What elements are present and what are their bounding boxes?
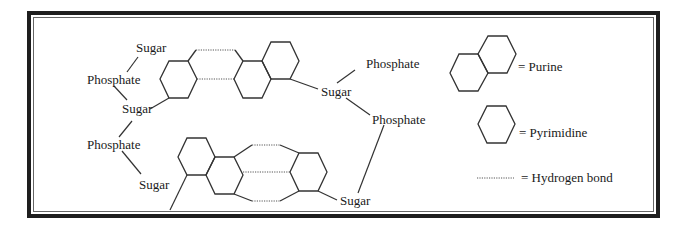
bottom-purine [178, 138, 243, 194]
label-sugar-mid-left: Sugar [122, 101, 153, 116]
label-phosphate-left-2: Phosphate [87, 137, 141, 152]
legend-pyrimidine-label: = Pyrimidine [519, 125, 588, 140]
top-pyrimidine [160, 61, 197, 98]
label-phosphate-right-top: Phosphate [366, 56, 420, 71]
legend-hydrogen-bond-label: = Hydrogen bond [521, 170, 613, 185]
label-phosphate-right-mid: Phosphate [372, 112, 426, 127]
bottom-pyrimidine [290, 153, 327, 191]
legend-purine-icon [450, 36, 516, 91]
legend-pyrimidine-icon [478, 106, 515, 143]
label-phosphate-left-1: Phosphate [87, 72, 141, 87]
label-sugar-top-left: Sugar [136, 40, 167, 55]
label-sugar-right-mid: Sugar [321, 84, 352, 99]
bottom-hydrogen-bonds [234, 145, 299, 201]
label-sugar-bottom-right: Sugar [340, 193, 371, 208]
dna-diagram: Sugar Phosphate Sugar Phosphate Sugar Su… [0, 0, 690, 240]
top-purine [234, 42, 299, 98]
legend: = Purine = Pyrimidine = Hydrogen bond [450, 36, 613, 185]
top-hydrogen-bonds [188, 50, 243, 79]
label-sugar-bottom-left: Sugar [139, 177, 170, 192]
legend-purine-label: = Purine [518, 59, 563, 74]
